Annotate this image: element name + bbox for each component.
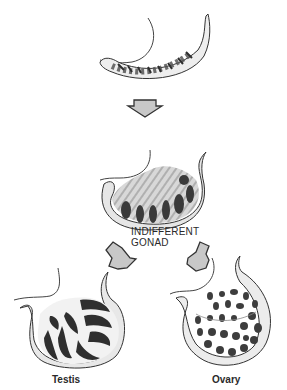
indifferent-gonad-label-line1: INDIFFERENT: [131, 226, 199, 237]
indifferent-gonad: [100, 150, 206, 230]
ovary-label: Ovary: [212, 374, 241, 385]
arrow-down-right-icon: [187, 242, 209, 271]
testis: [14, 268, 125, 368]
ovary: [170, 256, 270, 365]
testis-label: Testis: [52, 374, 81, 385]
arrow-down-icon: [128, 100, 162, 117]
early-gonadal-ridge: [100, 14, 210, 79]
gonad-development-diagram: Testis: [0, 0, 287, 390]
indifferent-gonad-label-line2: GONAD: [131, 237, 169, 248]
